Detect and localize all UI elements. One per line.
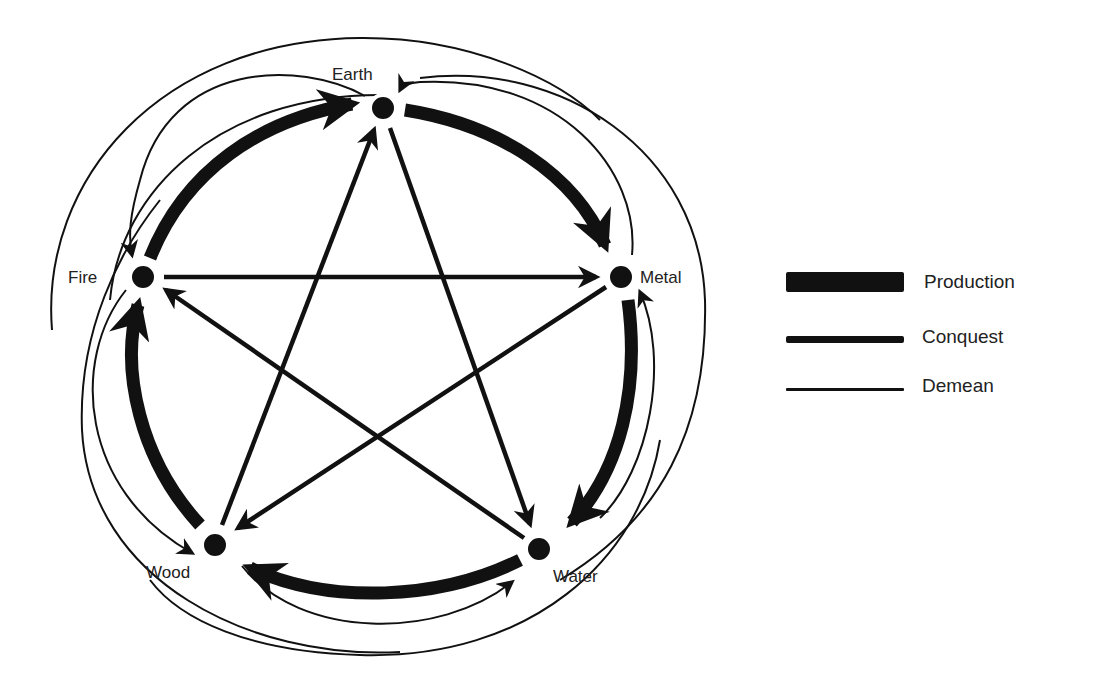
label-metal: Metal bbox=[640, 268, 682, 287]
legend-label-conquest: Conquest bbox=[922, 327, 1003, 347]
conquest-edges bbox=[164, 128, 606, 538]
conquest-water-fire bbox=[166, 290, 524, 538]
label-water: Water bbox=[553, 567, 598, 586]
legend-item-demean: Demean bbox=[784, 376, 1084, 404]
production-swatch bbox=[786, 272, 904, 292]
production-fire-earth bbox=[150, 104, 352, 258]
node-wood bbox=[202, 532, 228, 558]
element-nodes bbox=[130, 95, 634, 562]
conquest-metal-wood bbox=[238, 287, 606, 528]
node-earth bbox=[370, 95, 396, 121]
production-water-wood bbox=[250, 560, 520, 593]
label-wood: Wood bbox=[146, 563, 190, 582]
label-earth: Earth bbox=[332, 65, 373, 84]
conquest-wood-earth bbox=[222, 130, 374, 525]
legend-item-conquest: Conquest bbox=[784, 324, 1084, 352]
legend: Production Conquest Demean bbox=[784, 266, 1084, 404]
node-fire bbox=[130, 264, 156, 290]
production-edges bbox=[132, 104, 632, 593]
demean-outer-arc-left bbox=[82, 200, 400, 653]
demean-swatch bbox=[786, 388, 904, 391]
node-water bbox=[526, 536, 552, 562]
node-metal bbox=[608, 264, 634, 290]
conquest-swatch bbox=[786, 336, 904, 343]
legend-label-production: Production bbox=[924, 272, 1015, 292]
production-wood-fire bbox=[132, 305, 200, 525]
label-fire: Fire bbox=[68, 268, 97, 287]
legend-label-demean: Demean bbox=[922, 376, 994, 396]
legend-item-production: Production bbox=[784, 266, 1084, 294]
conquest-earth-water bbox=[390, 128, 530, 524]
production-earth-metal bbox=[405, 110, 605, 245]
